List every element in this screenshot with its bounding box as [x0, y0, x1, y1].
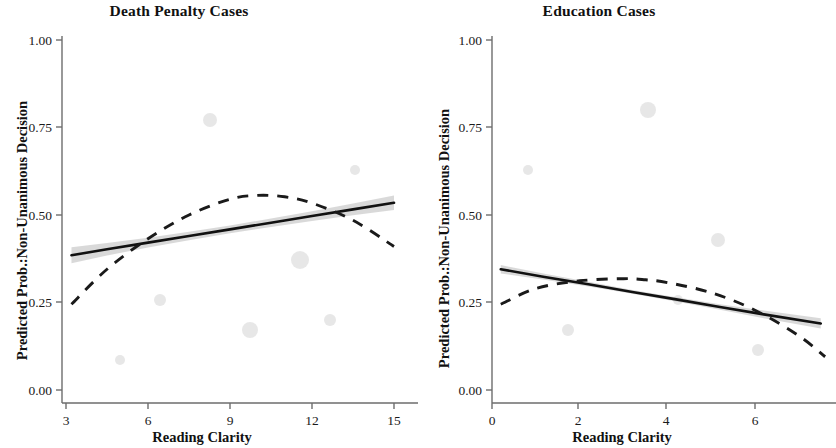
- x-axis-ticks: [492, 403, 755, 409]
- x-axis-tick-labels: 0 2 4 6: [489, 413, 759, 428]
- y-axis-tick-labels: 1.00 0.75 0.50 0.25 0.00: [28, 33, 52, 398]
- x-tick-6: 6: [752, 413, 759, 428]
- x-tick-2: 2: [575, 413, 582, 428]
- plot-area-education: 1.00 0.75 0.50 0.25 0.00 0 2 4 6: [418, 0, 836, 448]
- y-axis-ticks: [56, 40, 62, 390]
- y-tick-0-75: 0.75: [458, 120, 482, 135]
- y-axis-ticks: [486, 40, 492, 390]
- y-tick-0-00: 0.00: [458, 383, 482, 398]
- y-tick-1-00: 1.00: [458, 33, 482, 48]
- x-tick-3: 3: [63, 413, 70, 428]
- x-axis-tick-labels: 3 6 9 12 15: [63, 413, 401, 428]
- y-tick-0-50: 0.50: [28, 208, 52, 223]
- x-tick-6: 6: [145, 413, 152, 428]
- x-tick-4: 4: [663, 413, 670, 428]
- y-tick-0-25: 0.25: [458, 295, 482, 310]
- x-axis-ticks: [66, 403, 394, 409]
- linear-fit-line-education: [501, 269, 821, 323]
- y-tick-0-50: 0.50: [458, 208, 482, 223]
- y-tick-0-00: 0.00: [28, 383, 52, 398]
- y-axis-tick-labels: 1.00 0.75 0.50 0.25 0.00: [458, 33, 482, 398]
- y-tick-0-75: 0.75: [28, 120, 52, 135]
- panel-death-penalty: Death Penalty Cases Predicted Prob.:Non-…: [0, 0, 418, 448]
- series-group-death-penalty: [71, 195, 394, 304]
- y-tick-0-25: 0.25: [28, 295, 52, 310]
- y-tick-1-00: 1.00: [28, 33, 52, 48]
- x-tick-12: 12: [305, 413, 319, 428]
- plot-area-death-penalty: 1.00 0.75 0.50 0.25 0.00 3 6 9 12 15: [0, 0, 418, 448]
- x-tick-0: 0: [489, 413, 496, 428]
- panel-education: Education Cases Predicted Prob.:Non-Unan…: [418, 0, 836, 448]
- x-tick-9: 9: [227, 413, 234, 428]
- linear-fit-line-death-penalty: [71, 203, 394, 256]
- figure-two-panel-chart: Death Penalty Cases Predicted Prob.:Non-…: [0, 0, 836, 448]
- paper-texture: [523, 102, 764, 356]
- series-group-education: [501, 265, 825, 357]
- x-tick-15: 15: [387, 413, 401, 428]
